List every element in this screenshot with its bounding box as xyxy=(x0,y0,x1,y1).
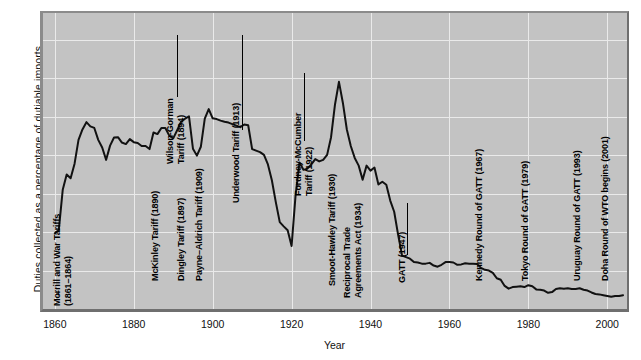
plot-inner: Mo̶rrill and War Tariffs (1861–1864)McKi… xyxy=(43,13,627,309)
x-tick-2000: 2000 xyxy=(577,318,637,330)
x-tick-1980: 1980 xyxy=(498,318,558,330)
annotation-mckinley: McKinley Tariff (1890) xyxy=(150,191,161,281)
annotation-leader-fordney xyxy=(304,73,305,141)
annotation-wilson-gorman: Wilson-Gorman Tariff (1894) xyxy=(165,98,186,164)
annotation-gatt: GATT (1947) xyxy=(397,232,408,283)
series-polyline xyxy=(55,82,623,297)
annotation-doha-round: Doha Round of WTO begins (2001) xyxy=(600,136,611,281)
annotation-tokyo-round: Tokyo Round of GATT (1979) xyxy=(520,161,531,281)
annotation-payne-aldrich: Payne–Aldrich Tariff (1909) xyxy=(194,168,205,281)
annotation-leader-wilson-gorman xyxy=(177,35,178,97)
x-tick-1880: 1880 xyxy=(104,318,164,330)
chart-figure: Duties collected as a percentage of duti… xyxy=(0,0,641,360)
annotation-leader-underwood xyxy=(242,35,243,130)
x-tick-1940: 1940 xyxy=(341,318,401,330)
annotation-morrill: Mo̶rrill and War Tariffs (1861–1864) xyxy=(52,214,73,306)
annotation-kennedy-round: Kennedy Round of GATT (1967) xyxy=(474,149,485,281)
x-tick-1920: 1920 xyxy=(262,318,322,330)
plot-area: Mo̶rrill and War Tariffs (1861–1864)McKi… xyxy=(40,11,629,312)
annotation-leader-gatt xyxy=(407,203,408,255)
annotation-uruguay-round: Uruguay Round of GATT (1993) xyxy=(572,150,583,281)
annotation-underwood: Underwood Tariff (1913) xyxy=(231,103,242,203)
x-axis-label: Year xyxy=(40,339,629,351)
x-tick-1900: 1900 xyxy=(183,318,243,330)
annotation-dingley: Dingley Tariff (1897) xyxy=(176,198,187,281)
annotation-smoot-hawley: Smoot-Hawley Tariff (1930) xyxy=(327,174,338,286)
x-tick-1960: 1960 xyxy=(419,318,479,330)
annotation-reciprocal: Reciprocal Trade Agreements Act (1934) xyxy=(342,203,363,298)
x-tick-1860: 1860 xyxy=(25,318,85,330)
